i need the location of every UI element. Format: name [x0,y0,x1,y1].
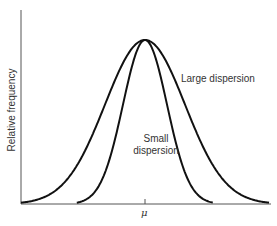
chart-plot [0,0,277,226]
mu-tick-label: μ [141,207,148,219]
small-dispersion-label-line2: dispersion [130,145,182,157]
y-axis-label: Relative frequency [6,69,18,152]
large-dispersion-label: Large dispersion [181,73,255,85]
small-dispersion-label-line1: Small [130,133,182,145]
large-dispersion-curve [21,40,269,203]
small-dispersion-label: Small dispersion [130,133,182,156]
